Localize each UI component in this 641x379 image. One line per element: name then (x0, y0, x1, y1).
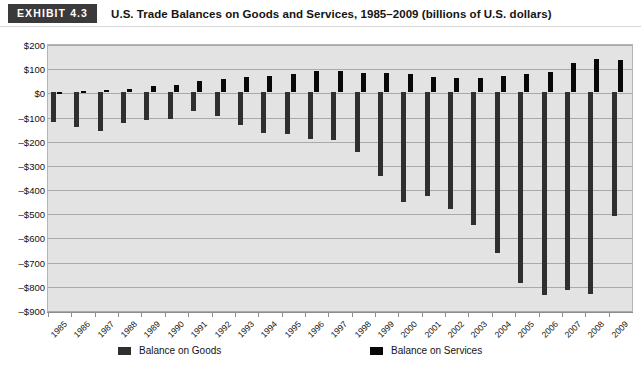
x-axis-tick (468, 313, 469, 317)
x-axis-tick (609, 313, 610, 317)
bar-goods-2000 (401, 92, 406, 201)
y-axis-tick-label: –$600 (1, 233, 45, 244)
bar-goods-1988 (121, 92, 126, 123)
bar-goods-2007 (565, 92, 570, 290)
legend-swatch-services-icon (370, 347, 383, 355)
bar-goods-1992 (215, 92, 220, 115)
bar-services-1990 (174, 85, 179, 92)
bar-goods-2006 (542, 92, 547, 295)
bar-services-1998 (361, 73, 366, 93)
x-axis-label-2003: 2003 (469, 319, 490, 340)
x-axis-tick (398, 313, 399, 317)
x-axis-label-2006: 2006 (539, 319, 560, 340)
x-axis-label-2002: 2002 (446, 319, 467, 340)
legend-label-goods: Balance on Goods (139, 345, 221, 356)
x-axis-label-1993: 1993 (235, 319, 256, 340)
x-axis-label-1986: 1986 (72, 319, 93, 340)
y-axis-tick-label: –$800 (1, 281, 45, 292)
x-axis-tick (282, 313, 283, 317)
x-axis-tick (48, 313, 49, 317)
y-axis-labels: $200$100$0–$100–$200–$300–$400–$500–$600… (0, 44, 45, 312)
legend-item-services: Balance on Services (370, 345, 482, 356)
bar-goods-1998 (355, 92, 360, 152)
x-axis-label-1988: 1988 (119, 319, 140, 340)
bar-goods-1993 (238, 92, 243, 124)
y-axis-tick-label: $200 (1, 40, 45, 51)
bar-services-2002 (454, 78, 459, 93)
bar-goods-1996 (308, 92, 313, 138)
y-axis-tick-label: –$100 (1, 112, 45, 123)
x-axis-tick (539, 313, 540, 317)
legend-label-services: Balance on Services (391, 345, 482, 356)
x-axis-label-2008: 2008 (586, 319, 607, 340)
x-axis-tick (71, 313, 72, 317)
exhibit-badge: EXHIBIT 4.3 (8, 4, 97, 23)
x-axis-line (47, 312, 633, 313)
bar-goods-2003 (471, 92, 476, 225)
bar-services-1997 (338, 71, 343, 93)
x-axis-label-2007: 2007 (562, 319, 583, 340)
bar-goods-1999 (378, 92, 383, 176)
x-axis-label-1994: 1994 (259, 319, 280, 340)
x-axis-tick (165, 313, 166, 317)
y-axis-tick-label: –$900 (1, 306, 45, 317)
bar-services-1987 (104, 90, 109, 92)
x-axis-tick (258, 313, 259, 317)
x-axis-label-1998: 1998 (352, 319, 373, 340)
y-axis-tick-label: –$200 (1, 136, 45, 147)
exhibit-figure: EXHIBIT 4.3 U.S. Trade Balances on Goods… (0, 0, 641, 379)
x-axis-tick (492, 313, 493, 317)
bar-services-1994 (267, 76, 272, 92)
bar-services-1996 (314, 71, 319, 92)
bar-goods-1991 (191, 92, 196, 111)
bar-services-1989 (151, 86, 156, 92)
x-axis-tick (118, 313, 119, 317)
bar-services-1991 (197, 81, 202, 92)
bar-goods-2002 (448, 92, 453, 209)
x-axis-label-1991: 1991 (189, 319, 210, 340)
bar-services-1988 (127, 89, 132, 92)
bar-goods-2001 (425, 92, 430, 195)
x-axis-tick (305, 313, 306, 317)
bar-goods-2009 (612, 92, 617, 215)
x-axis-tick (422, 313, 423, 317)
x-axis-tick (352, 313, 353, 317)
bar-services-2008 (594, 59, 599, 92)
bar-goods-1997 (331, 92, 336, 140)
bar-goods-2008 (588, 92, 593, 294)
bar-services-1985 (57, 92, 62, 94)
x-axis-label-1997: 1997 (329, 319, 350, 340)
x-axis-tick (585, 313, 586, 317)
bar-goods-1987 (98, 92, 103, 131)
bar-goods-1990 (168, 92, 173, 119)
x-axis-label-2001: 2001 (422, 319, 443, 340)
y-axis-tick-label: $100 (1, 64, 45, 75)
bar-goods-2005 (518, 92, 523, 282)
y-axis-tick-label: –$500 (1, 209, 45, 220)
legend-swatch-goods-icon (118, 347, 131, 355)
x-axis-label-1992: 1992 (212, 319, 233, 340)
chart-area: $200$100$0–$100–$200–$300–$400–$500–$600… (0, 28, 641, 379)
x-axis-label-1990: 1990 (165, 319, 186, 340)
x-axis-tick (188, 313, 189, 317)
bar-services-1993 (244, 77, 249, 92)
x-axis-label-2000: 2000 (399, 319, 420, 340)
y-axis-tick-label: $0 (1, 88, 45, 99)
bar-services-2004 (501, 76, 506, 92)
bar-services-2000 (408, 74, 413, 92)
y-axis-tick-label: –$300 (1, 160, 45, 171)
bars-layer (47, 44, 633, 312)
x-axis-tick (445, 313, 446, 317)
legend-item-goods: Balance on Goods (118, 345, 221, 356)
bar-services-2003 (478, 78, 483, 93)
x-axis-tick (328, 313, 329, 317)
bar-goods-1985 (51, 92, 56, 122)
x-axis-label-1996: 1996 (305, 319, 326, 340)
bar-goods-1989 (144, 92, 149, 120)
bar-services-2006 (548, 72, 553, 93)
bar-services-2001 (431, 77, 436, 92)
x-axis-tick (375, 313, 376, 317)
bar-services-1986 (81, 91, 86, 93)
bar-goods-2004 (495, 92, 500, 253)
x-axis-label-1987: 1987 (95, 319, 116, 340)
